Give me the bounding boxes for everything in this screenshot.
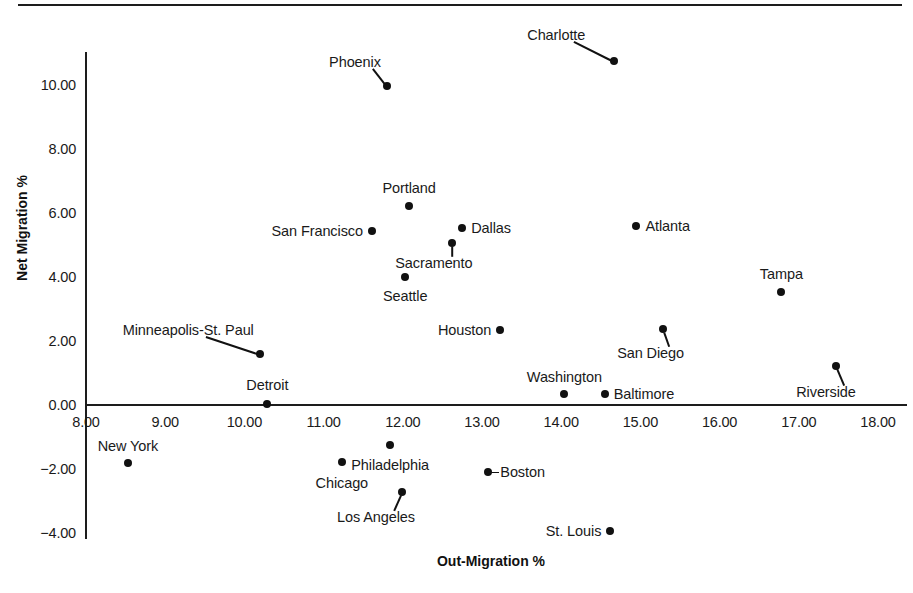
data-point [405,202,413,210]
data-point-label: Minneapolis-St. Paul [123,322,254,338]
y-axis-title: Net Migration % [14,175,30,281]
x-tick-label: 8.00 [72,414,99,430]
data-point-label: San Francisco [272,223,363,239]
label-leader-line [372,68,385,85]
y-tick-label: 2.00 [49,333,76,349]
data-point-label: Chicago [316,475,369,491]
data-point-label: Dallas [471,220,511,236]
data-point [632,222,640,230]
data-point [263,400,271,408]
y-tick-label: 0.00 [49,397,76,413]
label-leader-line [451,247,453,257]
x-tick-label: 15.00 [623,414,658,430]
data-point-label: Charlotte [527,27,585,43]
data-point [659,325,667,333]
data-point [496,326,504,334]
data-point-label: Seattle [383,288,427,304]
data-point-label: Los Angeles [337,509,415,525]
data-point-label: Atlanta [645,218,689,234]
data-point-label: Boston [500,464,545,480]
data-point-label: Riverside [796,384,856,400]
y-axis-line [85,52,87,539]
data-point [601,390,609,398]
data-point-label: Houston [438,322,491,338]
data-point-label: Baltimore [614,386,674,402]
data-point-label: Portland [383,180,436,196]
y-tick-label: 4.00 [49,269,76,285]
x-tick-label: 12.00 [385,414,420,430]
label-leader-line [491,472,499,474]
data-point-label: Washington [527,369,602,385]
data-point-label: Tampa [760,266,803,282]
y-tick-label: 10.00 [41,77,76,93]
scatter-plot-figure: Net Migration % Out-Migration % 10.008.0… [0,0,913,593]
data-point [338,458,346,466]
data-point-label: San Diego [617,345,684,361]
data-point [386,441,394,449]
x-axis-title: Out-Migration % [437,553,545,569]
label-leader-line [574,41,612,61]
data-point [606,527,614,535]
data-point [610,57,618,65]
data-point-label: New York [98,438,158,454]
label-leader-line [206,336,258,355]
data-point [124,459,132,467]
data-point [458,224,466,232]
data-point [368,227,376,235]
y-tick-label: −4.00 [40,525,76,541]
x-tick-label: 14.00 [544,414,579,430]
data-point [777,288,785,296]
x-tick-label: 18.00 [860,414,895,430]
data-point-label: Detroit [246,377,288,393]
data-point [401,273,409,281]
data-point-label: Sacramento [395,255,472,271]
data-point [560,390,568,398]
data-point-label: St. Louis [546,523,602,539]
top-rule-divider [18,4,902,6]
x-tick-label: 10.00 [227,414,262,430]
y-tick-label: 6.00 [49,205,76,221]
x-tick-label: 16.00 [702,414,737,430]
x-tick-label: 13.00 [464,414,499,430]
x-tick-label: 9.00 [151,414,178,430]
y-tick-label: −2.00 [40,461,76,477]
data-point-label: Philadelphia [351,457,429,473]
data-point [256,350,264,358]
x-tick-label: 11.00 [306,414,340,430]
y-tick-label: 8.00 [49,141,76,157]
x-tick-label: 17.00 [781,414,816,430]
x-axis-line [85,404,907,406]
